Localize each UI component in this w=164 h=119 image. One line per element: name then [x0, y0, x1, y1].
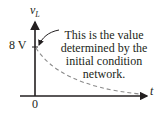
y-axis-subscript: L — [35, 10, 39, 19]
y-tick-label: 8 V — [9, 38, 26, 53]
annotation-arrow-icon — [39, 30, 59, 45]
annotation-line: network. — [60, 68, 148, 81]
x-axis-label: t — [150, 84, 153, 99]
origin-label: 0 — [32, 97, 38, 112]
y-axis-label: vL — [30, 3, 40, 19]
annotation-text: This is the value determined by the init… — [60, 29, 148, 81]
